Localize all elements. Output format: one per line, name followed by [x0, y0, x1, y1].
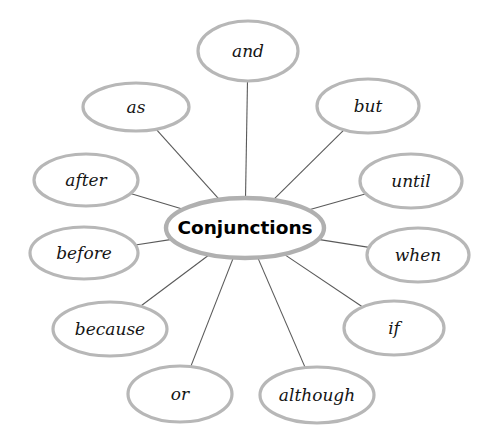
branch-node-label: and	[232, 41, 264, 61]
central-node-label: Conjunctions	[177, 217, 312, 238]
branch-node-label: although	[279, 385, 355, 405]
central-node[interactable]: Conjunctions	[166, 198, 324, 258]
branch-node-label: as	[127, 97, 146, 117]
branch-node[interactable]: when	[367, 228, 469, 282]
mind-map-canvas: andasafterbeforebecauseoralthoughifwhenu…	[0, 0, 499, 443]
branch-node[interactable]: because	[53, 302, 167, 356]
branch-node[interactable]: as	[83, 83, 189, 131]
branch-node[interactable]: before	[30, 227, 138, 279]
branch-node[interactable]: and	[198, 21, 298, 81]
branch-node-label: after	[65, 170, 107, 190]
branch-node-label: but	[354, 96, 383, 116]
conjunctions-mind-map: andasafterbeforebecauseoralthoughifwhenu…	[0, 0, 499, 443]
connector-line	[318, 239, 369, 247]
connector-line	[140, 255, 209, 306]
branch-node-label: until	[391, 171, 431, 191]
connector-line	[135, 239, 171, 245]
branch-node[interactable]: although	[260, 367, 374, 423]
branch-node[interactable]: until	[360, 154, 462, 208]
branch-node-label: when	[395, 245, 442, 265]
branch-node-label: or	[171, 384, 190, 404]
connector-line	[191, 258, 234, 367]
branch-node[interactable]: but	[317, 79, 419, 133]
branch-node[interactable]: if	[344, 301, 444, 355]
connector-line	[308, 194, 366, 210]
connector-line	[273, 130, 344, 200]
branch-node-label: because	[75, 319, 145, 339]
branch-node-label: before	[56, 243, 112, 263]
branch-node[interactable]: after	[34, 154, 138, 206]
connector-line	[246, 81, 248, 198]
connector-line	[156, 129, 219, 199]
branch-node[interactable]: or	[128, 366, 232, 422]
connector-line	[131, 193, 184, 209]
node-layer: andasafterbeforebecauseoralthoughifwhenu…	[30, 21, 469, 423]
connector-line	[284, 254, 363, 307]
connector-line	[258, 258, 305, 368]
